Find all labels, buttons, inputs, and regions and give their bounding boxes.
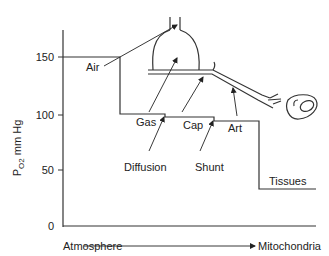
y-axis-title-unit: mm Hg: [11, 120, 23, 159]
cap-to-capillary-arrow: [182, 77, 203, 112]
tick-label-50: 50: [42, 164, 54, 176]
label-gas: Gas: [136, 116, 157, 128]
svg-text:PO2 mm Hg: PO2 mm Hg: [11, 120, 26, 177]
tick-label-0: 0: [48, 220, 54, 232]
y-axis-title-sub: O2: [17, 158, 26, 169]
tissue-cell-nucleus: [299, 99, 316, 114]
alveolus-right-wall: [180, 30, 199, 70]
tick-label-100: 100: [36, 109, 54, 121]
label-cap: Cap: [183, 119, 203, 131]
x-label-atmosphere: Atmosphere: [63, 240, 122, 252]
x-label-mitochondria: Mitochondria: [258, 240, 322, 252]
arteriole-branch-1: [270, 94, 278, 98]
label-shunt: Shunt: [195, 161, 224, 173]
arteriole-branch-3: [273, 101, 281, 104]
art-to-artery-arrow: [233, 88, 237, 116]
label-tissues: Tissues: [269, 175, 307, 187]
y-axis-title: PO2 mm Hg: [11, 120, 26, 177]
tick-label-150: 150: [36, 51, 54, 63]
alveolus-drawing: [148, 17, 317, 119]
vessel-branch-top: [213, 62, 215, 70]
air-to-airway-arrow: [120, 25, 177, 57]
air-pointer-line: [104, 57, 120, 66]
y-axis-title-p: P: [11, 169, 23, 176]
label-art: Art: [228, 122, 242, 134]
alveolus-left-wall: [153, 30, 170, 70]
pointer-arrows: [84, 25, 255, 246]
label-air: Air: [86, 61, 100, 73]
label-diffusion: Diffusion: [124, 161, 167, 173]
mitochondrion-mark: [294, 100, 298, 106]
arteriole-branch-2: [268, 99, 281, 100]
oxygen-cascade-diagram: 150 100 50 0 PO2 mm Hg: [0, 0, 329, 256]
